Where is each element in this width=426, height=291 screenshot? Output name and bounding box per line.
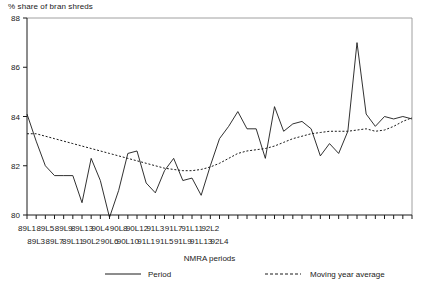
legend-label: Period [148,270,171,279]
x-tick-label: 91L1 [137,237,155,246]
chart-title: % share of bran shreds [8,2,93,11]
axes-layer [23,18,412,219]
x-tick-label: 89L13 [71,224,94,233]
x-tick-label: 90L12 [126,224,149,233]
series-layer [27,43,412,218]
x-tick-label: 91L3 [146,224,164,233]
x-tick-label: 91L13 [190,237,213,246]
x-tick-label: 91L5 [156,237,174,246]
x-tick-label: 90L2 [82,237,100,246]
y-tick-label: 86 [11,63,20,72]
chart-plot: 89L189L389L589L789L989L1189L1390L290L490… [0,0,426,291]
x-tick-label: 90L4 [91,224,109,233]
x-axis-title: NMRA periods [184,254,236,263]
chart-legend: PeriodMoving year average [105,270,385,279]
x-tick-labels: 89L189L389L589L789L989L1189L1390L290L490… [18,224,229,246]
x-tick-label: 92L4 [211,237,229,246]
y-tick-label: 82 [11,162,20,171]
legend-label: Moving year average [310,270,385,279]
x-tick-label: 90L10 [117,237,140,246]
y-tick-label: 88 [11,14,20,23]
x-tick-label: 89L11 [62,237,84,246]
y-tick-label: 84 [11,113,20,122]
y-tick-labels: 8082848688 [11,14,20,220]
x-tick-label: 91L11 [181,224,203,233]
chart-container: % share of bran shreds 89L189L389L589L78… [0,0,426,291]
x-tick-label: 89L1 [18,224,36,233]
x-tick-label: 92L2 [201,224,219,233]
x-tick-label: 89L5 [36,224,54,233]
series-line [27,118,412,171]
y-tick-label: 80 [11,211,20,220]
x-tick-label: 89L3 [27,237,45,246]
x-axis-title-text: NMRA periods [184,254,236,263]
